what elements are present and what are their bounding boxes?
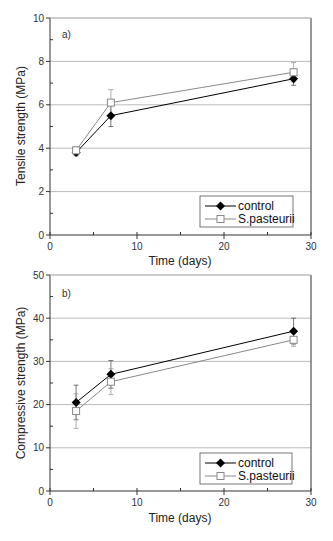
square-marker-icon bbox=[73, 147, 80, 154]
x-axis-label: Time (days) bbox=[149, 511, 212, 525]
y-tick-label: 4 bbox=[38, 143, 44, 154]
legend-label-pasteurii: S.pasteurii bbox=[238, 212, 295, 226]
x-axis-label: Time (days) bbox=[149, 254, 212, 268]
x-tick-label: 20 bbox=[218, 497, 230, 508]
legend-label-control: control bbox=[238, 456, 274, 470]
y-tick-label: 50 bbox=[33, 270, 45, 281]
x-tick-labels: 0 10 20 30 bbox=[47, 241, 317, 252]
y-tick-labels: 0 2 4 6 8 10 bbox=[33, 13, 45, 241]
square-marker-icon bbox=[107, 378, 114, 385]
y-tick-label: 0 bbox=[38, 230, 44, 241]
panel-label: a) bbox=[62, 29, 71, 40]
legend-label-control: control bbox=[238, 199, 274, 213]
x-tick-label: 10 bbox=[131, 241, 143, 252]
y-axis-label: Tensile strength (MPa) bbox=[14, 66, 28, 186]
x-tick-labels: 0 10 20 30 bbox=[47, 497, 317, 508]
y-tick-label: 8 bbox=[38, 56, 44, 67]
chart-figure: a) 0 2 4 6 8 10 0 10 20 30 Time (days) T… bbox=[0, 0, 333, 541]
legend-label-pasteurii: S.pasteurii bbox=[238, 469, 295, 483]
y-tick-label: 0 bbox=[38, 486, 44, 497]
y-axis-label: Compressive strength (MPa) bbox=[14, 307, 28, 460]
legend: control S.pasteurii bbox=[200, 196, 295, 227]
square-marker-icon bbox=[107, 99, 114, 106]
y-tick-label: 6 bbox=[38, 99, 44, 110]
y-tick-label: 2 bbox=[38, 186, 44, 197]
x-tick-label: 30 bbox=[305, 497, 317, 508]
y-tick-labels: 0 10 20 30 40 50 bbox=[33, 270, 45, 497]
grid-lines bbox=[50, 275, 311, 448]
x-tick-label: 10 bbox=[131, 497, 143, 508]
data-series bbox=[72, 62, 299, 157]
legend: control S.pasteurii bbox=[200, 453, 295, 484]
square-marker-icon bbox=[217, 473, 224, 480]
data-series bbox=[72, 318, 299, 428]
x-tick-label: 30 bbox=[305, 241, 317, 252]
square-marker-icon bbox=[290, 69, 297, 76]
square-marker-icon bbox=[73, 408, 80, 415]
y-tick-label: 30 bbox=[33, 356, 45, 367]
diamond-marker-icon bbox=[289, 327, 298, 336]
series-line-pasteurii bbox=[76, 72, 294, 150]
y-tick-label: 10 bbox=[33, 442, 45, 453]
y-tick-label: 10 bbox=[33, 13, 45, 24]
square-marker-icon bbox=[290, 336, 297, 343]
series-line-control bbox=[76, 331, 294, 402]
tensile-chart: a) 0 2 4 6 8 10 0 10 20 30 Time (days) T… bbox=[14, 13, 317, 269]
grid-lines bbox=[50, 18, 311, 192]
y-tick-label: 40 bbox=[33, 313, 45, 324]
x-tick-label: 0 bbox=[47, 241, 53, 252]
x-tick-label: 20 bbox=[218, 241, 230, 252]
compressive-chart: b) 0 10 20 30 40 50 0 10 20 30 Time (day… bbox=[14, 270, 317, 526]
y-tick-label: 20 bbox=[33, 399, 45, 410]
panel-label: b) bbox=[62, 288, 71, 299]
square-marker-icon bbox=[217, 216, 224, 223]
x-tick-label: 0 bbox=[47, 497, 53, 508]
